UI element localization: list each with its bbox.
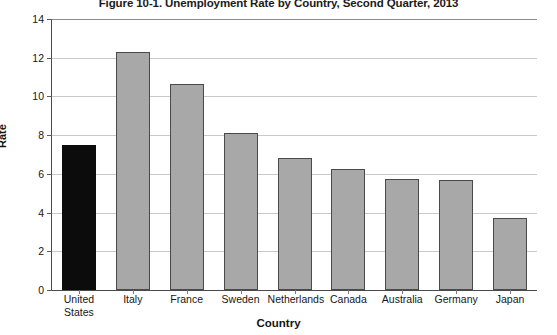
x-tick-mark xyxy=(402,290,403,294)
gridline xyxy=(52,19,537,20)
x-tick-mark xyxy=(456,290,457,294)
y-tick-label: 4 xyxy=(10,208,44,218)
x-tick-label: Japan xyxy=(483,293,537,306)
y-tick-label: 14 xyxy=(10,14,44,24)
y-tick-label: 8 xyxy=(10,130,44,140)
x-tick-mark xyxy=(187,290,188,294)
x-tick-mark xyxy=(241,290,242,294)
x-tick-mark xyxy=(510,290,511,294)
bar xyxy=(62,145,96,290)
x-tick-mark xyxy=(79,290,80,294)
y-tick-mark xyxy=(47,19,52,20)
bar xyxy=(116,52,150,290)
x-tick-label: United States xyxy=(52,293,106,318)
bar xyxy=(439,180,473,290)
plot-area xyxy=(52,19,537,290)
y-tick-label: 0 xyxy=(10,285,44,295)
y-tick-label: 12 xyxy=(10,53,44,63)
y-tick-label: 10 xyxy=(10,91,44,101)
x-tick-label: Germany xyxy=(429,293,483,306)
y-tick-mark xyxy=(47,174,52,175)
y-tick-mark xyxy=(47,96,52,97)
y-tick-mark xyxy=(47,251,52,252)
x-tick-mark xyxy=(133,290,134,294)
y-tick-mark xyxy=(47,58,52,59)
chart-figure: Figure 10-1. Unemployment Rate by Countr… xyxy=(0,0,557,335)
x-tick-label: Italy xyxy=(106,293,160,306)
chart-title: Figure 10-1. Unemployment Rate by Countr… xyxy=(0,0,557,10)
bar xyxy=(385,179,419,290)
bar xyxy=(170,84,204,290)
bar xyxy=(331,169,365,290)
x-tick-label: Netherlands xyxy=(268,293,322,306)
y-axis-label: Rate xyxy=(0,124,8,148)
y-tick-label: 2 xyxy=(10,246,44,256)
x-tick-mark xyxy=(348,290,349,294)
x-tick-label: France xyxy=(160,293,214,306)
bar xyxy=(278,158,312,290)
x-tick-label: Sweden xyxy=(214,293,268,306)
x-axis-label: Country xyxy=(0,317,557,329)
x-tick-mark xyxy=(295,290,296,294)
y-tick-label: 6 xyxy=(10,169,44,179)
y-tick-mark xyxy=(47,290,52,291)
y-tick-mark xyxy=(47,213,52,214)
bar xyxy=(224,133,258,290)
x-tick-label: Canada xyxy=(321,293,375,306)
x-tick-label: Australia xyxy=(375,293,429,306)
y-tick-mark xyxy=(47,135,52,136)
bar xyxy=(493,218,527,290)
